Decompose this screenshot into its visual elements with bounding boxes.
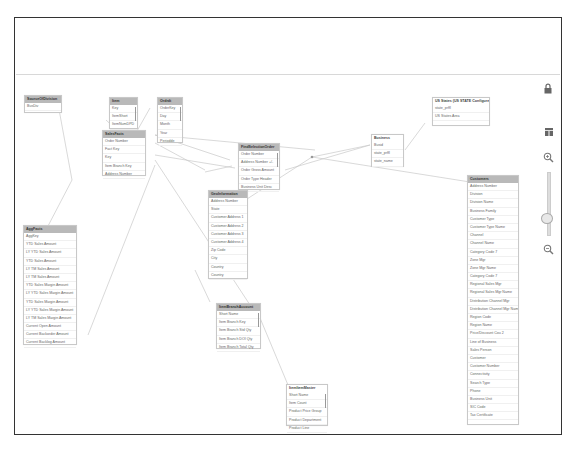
field-item[interactable]: Business Unit: [468, 396, 518, 404]
table-sourceofdivision[interactable]: SourceOfDivision BusDiv: [24, 95, 62, 113]
field-item[interactable]: Item Branch Total Qty: [217, 344, 260, 352]
field-item[interactable]: Regional Sales Mgr Name: [468, 289, 518, 297]
field-item[interactable]: Address Number: [209, 198, 247, 206]
field-item[interactable]: Zone Mgr Name: [468, 265, 518, 273]
field-item[interactable]: City: [209, 255, 247, 263]
field-item[interactable]: Tax Certificate: [468, 412, 518, 420]
table-scrollbar[interactable]: [277, 153, 279, 167]
field-item[interactable]: Address Number +/-: [239, 159, 279, 167]
field-item[interactable]: state_name: [372, 158, 403, 166]
field-item[interactable]: Distribution Channel Mgr Name: [468, 306, 518, 314]
field-item[interactable]: Customer Type: [468, 216, 518, 224]
field-item[interactable]: Month: [158, 121, 182, 129]
table-business[interactable]: Business Busid state_prffl state_name: [371, 134, 404, 167]
table-us-states[interactable]: US States (US STATE Configure) state_prf…: [432, 97, 490, 126]
field-item[interactable]: Address Number: [468, 183, 518, 191]
field-item[interactable]: Customer Address 4: [209, 239, 247, 247]
field-item[interactable]: state_prffl: [433, 105, 489, 113]
field-item[interactable]: ItemNumDPD: [110, 121, 137, 129]
field-item[interactable]: LY YTD Sales Amount: [24, 249, 76, 257]
field-item[interactable]: Channel Name: [468, 240, 518, 248]
field-item[interactable]: Item Branch Key: [103, 163, 145, 171]
field-item[interactable]: LY YTD Sales Margin Amount: [24, 290, 76, 298]
field-item[interactable]: Current Backlog Amount: [24, 339, 76, 347]
field-item[interactable]: Item Count: [287, 400, 327, 408]
field-item[interactable]: Business Family: [468, 208, 518, 216]
field-item[interactable]: LY TM Sales Amount: [24, 266, 76, 274]
field-item[interactable]: Product Line: [287, 425, 327, 433]
field-item[interactable]: Country: [209, 264, 247, 272]
field-item[interactable]: Channel: [468, 232, 518, 240]
field-item[interactable]: Search Type: [468, 380, 518, 388]
table-scrollbar[interactable]: [180, 107, 182, 121]
field-item[interactable]: Product Price Group: [287, 408, 327, 416]
table-findselectionorder[interactable]: FindSelectionOrder Order Number Address …: [238, 143, 280, 190]
field-item[interactable]: Current Open Amount: [24, 323, 76, 331]
table-scrollbar[interactable]: [325, 394, 327, 408]
table-customers[interactable]: Customers Address Number Division Divisi…: [467, 175, 519, 425]
field-item[interactable]: Connectivity: [468, 371, 518, 379]
field-item[interactable]: Key: [103, 154, 145, 162]
table-itembranchaccount[interactable]: ItemBranchAccount Short Name Item Branch…: [216, 303, 261, 349]
field-item[interactable]: Current Backorder Amount: [24, 331, 76, 339]
table-scrollbar[interactable]: [258, 313, 260, 327]
field-item[interactable]: Short Name: [287, 392, 327, 400]
field-item[interactable]: BusDiv: [25, 103, 61, 111]
field-item[interactable]: LY TM Sales Margin Amount: [24, 315, 76, 323]
field-item[interactable]: Day: [158, 113, 182, 121]
field-item[interactable]: Item Branch Key: [217, 319, 260, 327]
field-item[interactable]: LY YTD Sales Margin Amount: [24, 307, 76, 315]
table-salesfacts[interactable]: SalesFacts Order Number Fact Key Key Ite…: [102, 130, 146, 176]
field-item[interactable]: Regional Sales Mgr: [468, 281, 518, 289]
field-item[interactable]: ItemShort: [110, 113, 137, 121]
field-item[interactable]: Year: [158, 130, 182, 138]
field-item[interactable]: Category Code 7: [468, 273, 518, 281]
field-item[interactable]: Order Type Header: [239, 176, 279, 184]
field-item[interactable]: Zone Mgr: [468, 257, 518, 265]
field-item[interactable]: Division: [468, 191, 518, 199]
lock-icon[interactable]: [543, 83, 553, 96]
field-item[interactable]: Customer: [468, 355, 518, 363]
field-item[interactable]: Fact Key: [103, 146, 145, 154]
field-item[interactable]: Category Code 7: [468, 249, 518, 257]
field-item[interactable]: Short Name: [217, 311, 260, 319]
table-aggfacts[interactable]: AggFacts AggKey YTD Sales Amount LY YTD …: [23, 225, 77, 345]
model-canvas[interactable]: SourceOfDivision BusDiv Item Key ItemSho…: [0, 0, 576, 451]
zoom-slider-track[interactable]: [547, 172, 551, 236]
field-item[interactable]: Region Name: [468, 322, 518, 330]
table-itemitemmaster[interactable]: ItemItemMaster Short Name Item Count Pro…: [286, 384, 328, 426]
field-item[interactable]: Zip Code: [209, 247, 247, 255]
field-item[interactable]: Busid: [372, 142, 403, 150]
field-item[interactable]: YTD Sales Margin Amount: [24, 282, 76, 290]
field-item[interactable]: Division Name: [468, 199, 518, 207]
field-item[interactable]: Distribution Channel Mgr: [468, 298, 518, 306]
table-geoinformation[interactable]: GeoInformation Address Number State Cust…: [208, 190, 248, 279]
field-item[interactable]: SIC Code: [468, 404, 518, 412]
field-item[interactable]: YTD Sales Amount: [24, 258, 76, 266]
field-item[interactable]: Order Number: [239, 151, 279, 159]
field-item[interactable]: Sales Person: [468, 347, 518, 355]
field-item[interactable]: Product Department: [287, 417, 327, 425]
field-item[interactable]: Customer Address 1: [209, 214, 247, 222]
field-item[interactable]: Order Number: [103, 138, 145, 146]
field-item[interactable]: LY TM Sales Amount: [24, 274, 76, 282]
field-item[interactable]: Country: [209, 272, 247, 280]
field-item[interactable]: Phone: [468, 388, 518, 396]
field-item[interactable]: Line of Business: [468, 339, 518, 347]
field-item[interactable]: Customer Type Name: [468, 224, 518, 232]
field-item[interactable]: YTD Sales Margin Amount: [24, 299, 76, 307]
field-item[interactable]: Address Number: [103, 171, 145, 179]
layout-icon[interactable]: [544, 127, 554, 139]
field-item[interactable]: Item Branch Std Qty: [217, 327, 260, 335]
field-item[interactable]: Region Code: [468, 314, 518, 322]
field-item[interactable]: state_prffl: [372, 150, 403, 158]
field-item[interactable]: Key: [110, 105, 137, 113]
field-item[interactable]: Customer Address 2: [209, 223, 247, 231]
table-item[interactable]: Item Key ItemShort ItemNumDPD: [109, 97, 138, 129]
field-item[interactable]: Customer Number: [468, 363, 518, 371]
field-item[interactable]: Order Gross Amount: [239, 167, 279, 175]
field-item[interactable]: OrderKey: [158, 105, 182, 113]
zoom-out-icon[interactable]: [543, 244, 554, 257]
table-scrollbar[interactable]: [135, 107, 137, 121]
field-item[interactable]: AggKey: [24, 233, 76, 241]
